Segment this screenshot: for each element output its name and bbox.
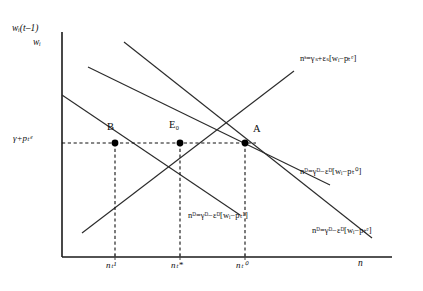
point-label-a: A xyxy=(253,123,261,134)
supply-curve-label: nˢ=γₛ+εₛ[wᵢ−pₜᵉ] xyxy=(300,54,356,63)
demand-curve-upper-line xyxy=(88,67,330,185)
point-a-marker xyxy=(242,140,249,147)
point-label-e0: E₀ xyxy=(169,119,179,130)
economics-diagram: wᵢ(t–1) wᵢ γ+pₜᵉ n nₜ¹ nₜ* nₜ⁰ B E₀ A nˢ… xyxy=(0,0,423,291)
demand-curve-upper-label: nᴰ=γᴰ−εᴰ[wᵢ−pₜ⁰] xyxy=(300,167,361,176)
x-tick-label-n0: nₜ⁰ xyxy=(236,261,248,270)
demand-curve-outer-label: nᴰ=γᴰ−εᴰ[wᵢ−pₜᵉ] xyxy=(312,226,372,235)
y-axis-label-bottom: wᵢ xyxy=(33,38,41,48)
demand-curve-outer-line xyxy=(124,42,372,238)
point-label-b: B xyxy=(107,121,114,132)
x-tick-label-n1: nₜ¹ xyxy=(106,261,116,270)
x-tick-label-nstar: nₜ* xyxy=(171,261,183,270)
point-b-marker xyxy=(112,140,119,147)
diagram-canvas xyxy=(0,0,423,291)
point-e0-marker xyxy=(177,140,184,147)
x-axis-label: n xyxy=(358,259,363,269)
y-tick-label: γ+pₜᵉ xyxy=(13,134,32,143)
y-axis-label-top: wᵢ(t–1) xyxy=(12,24,38,34)
demand-curve-lower-label: nᴰ=γᴰ−εᴰ[wᵢ−pₜ¹] xyxy=(188,211,248,220)
